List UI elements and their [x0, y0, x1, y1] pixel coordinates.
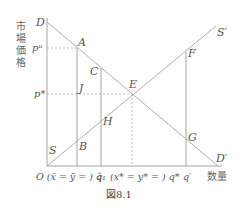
- label-D-prime: D′: [215, 152, 228, 165]
- supply-demand-diagram: D A C J E H B S F G S′ D′ pᵘ p* 市 場 価 格 …: [0, 0, 243, 208]
- figure-caption: 図8.1: [106, 189, 132, 200]
- y-axis-label-char-2: 場: [16, 32, 26, 44]
- y-axis-label-char-3: 価: [16, 44, 26, 56]
- label-J: J: [77, 82, 84, 95]
- label-D: D: [35, 16, 45, 29]
- label-C: C: [90, 65, 99, 78]
- label-E: E: [128, 78, 137, 91]
- label-G: G: [188, 131, 197, 144]
- x-tick-origin-qhat: O (x̄ = ȳ = ) q̂: [36, 171, 102, 182]
- y-axis-label-char-4: 格: [16, 56, 26, 68]
- label-S: S: [49, 144, 57, 157]
- x-axis-label: 数量: [207, 170, 227, 182]
- label-S-prime: S′: [217, 26, 228, 39]
- x-tick-qstar: (x* = y* = ) q*: [110, 171, 180, 182]
- y-axis-label-char-1: 市: [16, 20, 26, 32]
- x-tick-q1: q₁: [96, 171, 106, 182]
- label-A: A: [77, 36, 86, 49]
- label-B: B: [78, 140, 87, 153]
- x-tick-q-prime: q′: [183, 171, 192, 182]
- y-tick-pu: pᵘ: [32, 42, 42, 53]
- label-H: H: [102, 115, 113, 128]
- label-F: F: [187, 47, 196, 60]
- y-tick-pstar: p*: [34, 88, 45, 99]
